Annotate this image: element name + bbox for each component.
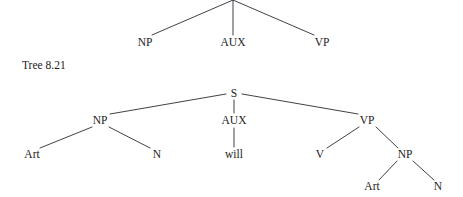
node-art-subject: Art (24, 148, 40, 160)
edge-np-art-object (379, 161, 397, 180)
edge-vp-np (376, 127, 398, 148)
edge-root-vp (233, 0, 314, 35)
edge-np-art (40, 127, 92, 148)
caption-tree-number: Tree 8.21 (22, 59, 66, 71)
node-np-object: NP (398, 148, 413, 160)
edge-vp-v (327, 127, 359, 148)
node-n-subject: N (153, 148, 162, 160)
lower-tree-edges (40, 94, 434, 180)
node-v: V (316, 148, 325, 160)
edge-np-n-object (413, 161, 434, 180)
edge-s-vp (242, 94, 358, 114)
node-aux: AUX (222, 114, 248, 126)
node-s: S (231, 87, 237, 99)
node-np: NP (138, 36, 153, 48)
edge-root-np (152, 0, 233, 35)
node-aux: AUX (221, 36, 247, 48)
node-art-object: Art (364, 180, 380, 192)
upper-tree-edges (152, 0, 314, 35)
node-n-object: N (434, 180, 443, 192)
node-will: will (225, 148, 243, 160)
edge-s-np (110, 94, 226, 114)
node-np-subject: NP (93, 114, 108, 126)
node-vp: VP (360, 114, 375, 126)
node-vp: VP (315, 36, 330, 48)
upper-tree-labels: NPAUXVP (138, 36, 330, 48)
tree-diagram-page: NPAUXVP SNPAUXVPArtNwillVNPArtN Tree 8.2… (0, 0, 463, 197)
edge-np-n (109, 127, 150, 148)
syntax-tree-canvas: NPAUXVP SNPAUXVPArtNwillVNPArtN Tree 8.2… (0, 0, 463, 197)
